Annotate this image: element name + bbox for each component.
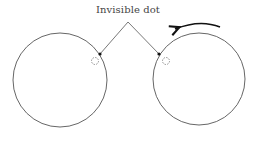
label-pointer-lines <box>100 22 159 54</box>
left-invisible-dot <box>92 58 99 65</box>
left-circle <box>13 33 107 127</box>
invisible-dot-label: Invisible dot <box>0 4 256 15</box>
diagram-canvas <box>0 0 274 142</box>
right-visible-dot <box>157 52 160 55</box>
rotation-arrow-icon <box>175 23 220 29</box>
left-visible-dot <box>98 52 101 55</box>
right-circle <box>153 33 245 125</box>
right-invisible-dot <box>163 58 170 65</box>
invisible-dot-diagram: Invisible dot <box>0 0 274 142</box>
